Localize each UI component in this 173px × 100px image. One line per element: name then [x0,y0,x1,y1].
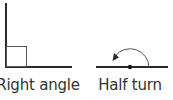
right-angle-label: Right angle [0,76,80,94]
half-turn-arrowhead-icon [113,53,120,61]
half-turn-vertex-dot [128,65,132,69]
half-turn-label: Half turn [98,76,162,94]
half-turn-figure [96,49,168,69]
right-angle-figure [5,3,72,68]
right-angle-marker-icon [7,47,27,67]
half-turn-arc-icon [116,49,150,67]
